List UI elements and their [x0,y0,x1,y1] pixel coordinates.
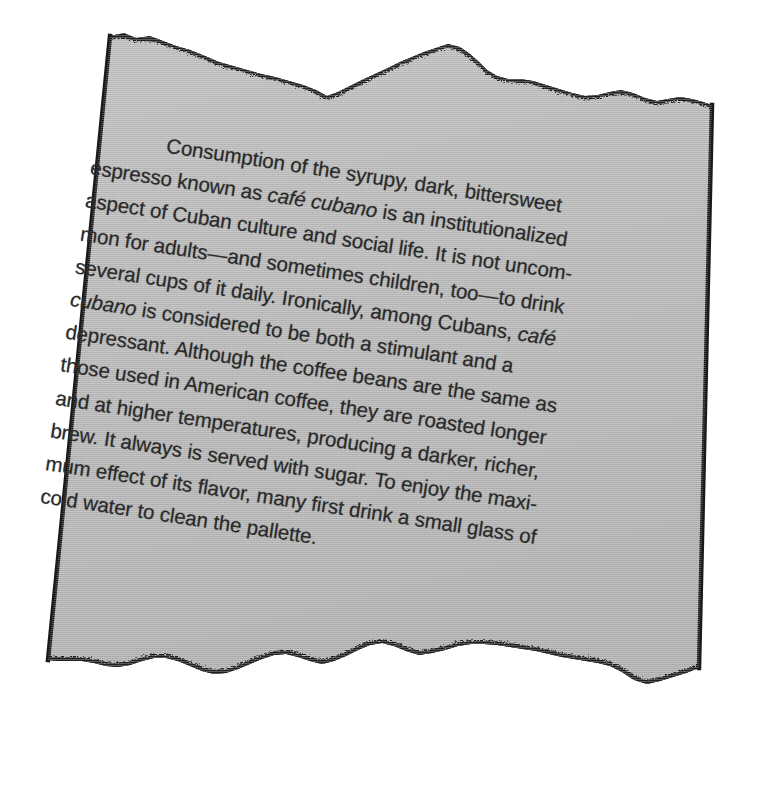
scrap-page: Consumption of the syrupy, dark, bitters… [0,0,765,796]
passage-text: Consumption of the syrupy, dark, bitters… [38,118,651,596]
italic-term: cubano [69,287,138,320]
italic-term: café [516,321,557,349]
